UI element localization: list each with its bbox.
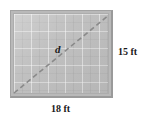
height-label: 15 ft xyxy=(118,47,137,57)
geometry-figure: d 15 ft 18 ft xyxy=(0,0,149,123)
width-label: 18 ft xyxy=(51,104,70,114)
diagonal-label: d xyxy=(55,44,61,55)
diagonal-dashed-line xyxy=(14,15,109,93)
diagonal-line-svg xyxy=(10,10,113,98)
